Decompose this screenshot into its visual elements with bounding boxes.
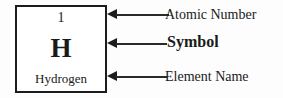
atomic-number-value: 1 — [17, 10, 105, 26]
leader-line — [116, 43, 167, 45]
callout-label-atomic-number: Atomic Number — [165, 5, 256, 24]
element-name-value: Hydrogen — [17, 71, 105, 86]
callout-label-element-name: Element Name — [165, 67, 249, 86]
element-symbol-value: H — [17, 33, 105, 63]
leader-line — [116, 14, 169, 16]
leader-line — [116, 76, 167, 78]
callout-label-symbol: Symbol — [167, 32, 219, 51]
element-cell-box: 1 H Hydrogen — [15, 5, 107, 93]
periodic-table-element-key-diagram: 1 H Hydrogen Atomic Number Symbol Elemen… — [0, 0, 283, 98]
